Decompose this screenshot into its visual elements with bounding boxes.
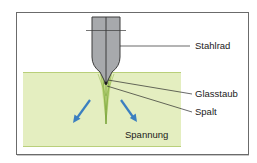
label-spannung: Spannung xyxy=(125,130,168,140)
label-glasstaub: Glasstaub xyxy=(195,89,238,99)
label-spalt: Spalt xyxy=(195,107,217,117)
label-stahlrad: Stahlrad xyxy=(195,41,230,51)
